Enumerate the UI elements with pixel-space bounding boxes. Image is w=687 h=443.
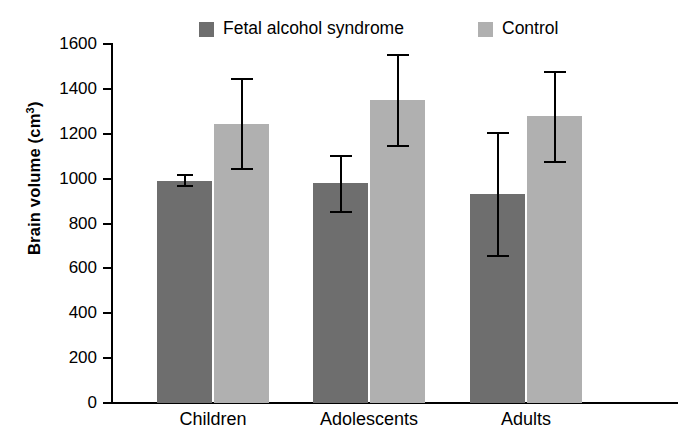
y-tick-label-text: 800	[37, 215, 97, 232]
error-bar-cap-upper	[231, 78, 253, 80]
y-tick-label: 0	[35, 394, 97, 412]
y-tick-mark	[103, 267, 112, 269]
error-bar-stem	[241, 79, 243, 169]
y-tick-label: 800	[35, 215, 97, 233]
bar-adolescents-fas	[313, 183, 368, 403]
error-bar-stem	[497, 133, 499, 256]
error-bar-cap-lower	[387, 145, 409, 147]
y-tick-mark	[103, 357, 112, 359]
y-tick-label: 1200	[35, 125, 97, 143]
y-tick-label-text: 400	[37, 304, 97, 321]
y-tick-label: 400	[35, 304, 97, 322]
y-tick-mark	[103, 43, 112, 45]
error-bar-stem	[554, 72, 556, 162]
y-tick-mark	[103, 223, 112, 225]
error-bar-stem	[397, 55, 399, 146]
y-tick-label-text: 600	[37, 259, 97, 276]
x-axis-label-adults: Adults	[426, 410, 626, 428]
error-bar-cap-lower	[487, 255, 509, 257]
plot-area: Brain volume (cm3) 020040060080010001200…	[0, 0, 687, 443]
y-tick-label-text: 1200	[37, 125, 97, 142]
y-axis-title-superscript: 3	[24, 107, 36, 113]
error-bar-cap-upper	[487, 132, 509, 134]
y-tick-label: 200	[35, 349, 97, 367]
y-tick-label-text: 1600	[37, 35, 97, 52]
error-bar-stem	[340, 156, 342, 212]
error-bar-cap-upper	[330, 155, 352, 157]
y-axis-title-close: )	[25, 101, 43, 107]
error-bar-cap-lower	[177, 185, 193, 187]
y-tick-mark	[103, 88, 112, 90]
y-tick-mark	[103, 312, 112, 314]
error-bar-cap-lower	[330, 211, 352, 213]
y-tick-label: 1600	[35, 35, 97, 53]
y-tick-mark	[103, 178, 112, 180]
y-tick-label: 600	[35, 259, 97, 277]
error-bar-cap-upper	[544, 71, 566, 73]
y-tick-label: 1000	[35, 170, 97, 188]
y-tick-mark	[103, 402, 112, 404]
error-bar-cap-lower	[231, 168, 253, 170]
bar-children-fas	[157, 181, 212, 403]
y-tick-label-text: 1000	[37, 170, 97, 187]
error-bar-cap-upper	[177, 174, 193, 176]
y-tick-mark	[103, 133, 112, 135]
y-tick-label-text: 200	[37, 349, 97, 366]
y-tick-label-text: 0	[37, 394, 97, 411]
brain-volume-bar-chart: Fetal alcohol syndrome Control Brain vol…	[0, 0, 687, 443]
y-tick-label: 1400	[35, 80, 97, 98]
y-tick-label-text: 1400	[37, 80, 97, 97]
error-bar-cap-upper	[387, 54, 409, 56]
error-bar-cap-lower	[544, 161, 566, 163]
